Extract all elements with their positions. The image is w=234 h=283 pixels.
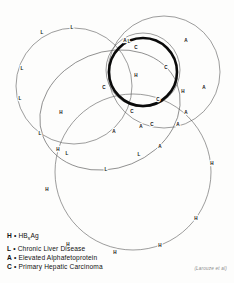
legend-key-l: L <box>7 244 11 253</box>
marker-label-h-25: H <box>181 89 185 94</box>
marker-label-h-24: H <box>59 110 63 115</box>
attribution-note: (Larouze et al) <box>194 266 227 271</box>
marker-label-a-15: A <box>184 110 188 115</box>
legend-separator-c: • <box>14 262 16 271</box>
legend-separator-l: • <box>13 244 15 253</box>
marker-label-a-11: A <box>202 85 206 90</box>
marker-label-c-18: C <box>164 65 168 70</box>
legend-key-a: A <box>7 253 12 262</box>
set-outline-h-4 <box>55 94 211 250</box>
marker-label-c-19: C <box>102 85 106 90</box>
legend-label-c: Primary Hepatic Carcinoma <box>18 262 102 271</box>
marker-label-l-6: L <box>105 167 108 172</box>
marker-label-a-14: A <box>158 144 162 149</box>
legend-label-h-pre: HB <box>18 232 27 239</box>
marker-label-l-3: L <box>19 96 22 101</box>
set-outline-group <box>16 16 220 250</box>
marker-label-h-27: H <box>194 216 198 221</box>
legend-row-c: C • Primary Hepatic Carcinoma <box>7 262 147 271</box>
marker-label-l-1: L <box>41 30 44 35</box>
marker-label-l-2: L <box>21 66 24 71</box>
legend-label-h: HBsAg <box>18 231 38 244</box>
marker-label-h-28: H <box>158 243 162 248</box>
set-outline-a-2 <box>108 16 220 128</box>
marker-label-a-10: A <box>184 38 188 43</box>
legend-key-c: C <box>7 262 12 271</box>
venn-figure: LLLLLLLLLLLLLLLLLLAAAAAAAAAAAAAAAACCCCCC… <box>0 0 234 283</box>
legend-label-a: Elevated Alphafetoprotein <box>18 253 97 262</box>
marker-label-l-4: L <box>39 131 42 136</box>
legend-row-h: H • HBsAg <box>7 231 147 244</box>
marker-label-l-7: L <box>138 152 141 157</box>
marker-label-a-12: A <box>176 122 180 127</box>
legend-row-a: A • Elevated Alphafetoprotein <box>7 253 147 262</box>
marker-label-c-22: C <box>150 122 154 127</box>
legend-label-l: Chronic Liver Disease <box>18 244 86 253</box>
set-outline-c-5 <box>109 38 177 106</box>
legend-separator-h: • <box>14 231 16 240</box>
legend-key-h: H <box>7 231 12 240</box>
marker-label-c-20: C <box>130 109 134 114</box>
marker-label-h-26: H <box>210 161 214 166</box>
marker-label-l-8: L <box>128 39 131 44</box>
marker-label-h-23: H <box>134 73 138 78</box>
marker-label-h-31: H <box>45 187 49 192</box>
marker-label-l-5: L <box>66 151 69 156</box>
marker-label-c-17: C <box>134 45 138 50</box>
legend-label-h-post: Ag <box>30 232 38 239</box>
legend-separator-a: • <box>14 253 16 262</box>
marker-label-a-13: A <box>139 124 143 129</box>
marker-label-a-16: A <box>112 129 116 134</box>
marker-label-h-32: H <box>56 147 60 152</box>
set-marker-label-group: LLLLLLLLLLLLLLLLLLAAAAAAAAAAAAAAAACCCCCC… <box>19 25 215 255</box>
legend: H • HBsAg L • Chronic Liver Disease A • … <box>7 231 147 271</box>
marker-label-l-0: L <box>71 25 74 30</box>
legend-row-l: L • Chronic Liver Disease <box>7 244 147 253</box>
